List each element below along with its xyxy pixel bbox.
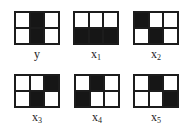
- label-subscript: 1: [97, 53, 101, 62]
- pattern-panel-x5: x5: [133, 74, 179, 127]
- pattern-panel-y: y: [14, 11, 60, 60]
- grid-cell-empty: [164, 13, 177, 27]
- grid-cell-empty: [31, 76, 44, 90]
- grid-cell-empty: [45, 29, 58, 43]
- pattern-grid: [14, 74, 60, 108]
- grid-cell-empty: [45, 92, 58, 106]
- grid-cell-empty: [75, 13, 88, 27]
- grid-cell-empty: [91, 92, 104, 106]
- grid-cell-empty: [164, 76, 177, 90]
- pattern-label: y: [14, 48, 60, 60]
- grid-cell-filled: [90, 29, 103, 43]
- label-subscript: 3: [38, 116, 42, 125]
- pattern-label: x3: [14, 111, 60, 127]
- grid-cell-empty: [104, 13, 117, 27]
- grid-cell-empty: [45, 13, 58, 27]
- grid-cell-empty: [164, 29, 177, 43]
- grid-cell-filled: [31, 13, 44, 27]
- pattern-label: x5: [133, 111, 179, 127]
- pattern-label: x4: [74, 111, 120, 127]
- grid-cell-empty: [135, 29, 148, 43]
- label-subscript: 4: [98, 116, 102, 125]
- label-base: y: [34, 47, 40, 61]
- label-subscript: 5: [157, 116, 161, 125]
- grid-cell-filled: [91, 76, 104, 90]
- grid-cell-empty: [135, 76, 148, 90]
- pattern-panel-x2: x2: [133, 11, 179, 64]
- grid-cell-empty: [16, 76, 29, 90]
- grid-cell-empty: [150, 92, 163, 106]
- pattern-grid: [133, 11, 179, 45]
- pattern-grid: [73, 11, 119, 45]
- grid-cell-empty: [105, 92, 118, 106]
- grid-cell-empty: [16, 29, 29, 43]
- grid-cell-empty: [76, 76, 89, 90]
- pattern-panel-x3: x3: [14, 74, 60, 127]
- pattern-grid: [74, 74, 120, 108]
- grid-cell-filled: [135, 13, 148, 27]
- grid-cell-filled: [164, 92, 177, 106]
- grid-cell-filled: [45, 76, 58, 90]
- label-subscript: 2: [157, 53, 161, 62]
- pattern-label: x1: [73, 48, 119, 64]
- grid-cell-filled: [104, 29, 117, 43]
- grid-cell-empty: [16, 13, 29, 27]
- grid-cell-filled: [75, 29, 88, 43]
- grid-cell-empty: [135, 92, 148, 106]
- grid-cell-empty: [150, 13, 163, 27]
- grid-cell-filled: [31, 29, 44, 43]
- grid-cell-filled: [76, 92, 89, 106]
- grid-cell-empty: [105, 76, 118, 90]
- grid-cell-empty: [90, 13, 103, 27]
- pattern-panel-x4: x4: [74, 74, 120, 127]
- grid-cell-filled: [31, 92, 44, 106]
- pattern-label: x2: [133, 48, 179, 64]
- grid-cell-filled: [150, 29, 163, 43]
- pattern-grid: [133, 74, 179, 108]
- pattern-grid: [14, 11, 60, 45]
- pattern-panel-x1: x1: [73, 11, 119, 64]
- grid-cell-empty: [16, 92, 29, 106]
- grid-cell-filled: [150, 76, 163, 90]
